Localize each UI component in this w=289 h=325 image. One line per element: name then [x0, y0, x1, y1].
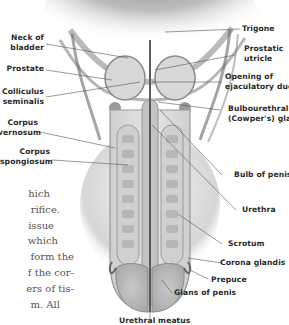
label-bulb-of-penis: Bulb of penis: [234, 170, 289, 180]
body-text-line: hich: [0, 186, 50, 202]
label-prostatic-utricle: Prostaticutricle: [244, 44, 283, 63]
label-colliculus-seminalis: Colliculusseminalis: [0, 87, 44, 106]
body-text-line: which: [0, 233, 58, 249]
body-text-line: f the cor-: [0, 265, 74, 281]
body-text-line: m. All: [0, 297, 60, 313]
body-text-line: issue: [0, 218, 54, 234]
label-corona-glandis: Corona glandis: [220, 258, 285, 268]
glans-left: [116, 264, 148, 313]
label-prostate: Prostate: [0, 64, 44, 74]
body-text-line: form the: [0, 249, 74, 265]
label-glans-of-penis: Glans of penis: [174, 288, 236, 298]
label-scrotum: Scrotum: [228, 239, 265, 249]
label-urethra: Urethra: [242, 205, 276, 215]
prostate-left-lobe: [105, 56, 145, 100]
label-urethral-meatus: Urethral meatus: [119, 316, 190, 325]
label-neck-of-bladder: Neck ofbladder: [4, 33, 44, 52]
prostate-right-lobe: [155, 56, 195, 100]
label-corpus-spongiosum: Corpusspongiosum: [0, 147, 50, 166]
body-text-fragment: hich rifice. issue which form the f the …: [0, 186, 62, 312]
label-corpus-cavernosum: Corpuscavernosum: [0, 118, 38, 137]
body-text-line: rifice.: [0, 202, 60, 218]
label-prepuce: Prepuce: [211, 275, 247, 285]
label-trigone: Trigone: [242, 24, 275, 34]
label-opening-of-ejaculatory-duct: Opening ofejaculatory duct: [225, 72, 289, 91]
body-text-line: ers of tis-: [0, 281, 74, 297]
anatomy-figure: Neck ofbladder Prostate Colliculussemina…: [0, 0, 289, 325]
label-bulbourethral-gland: Bulbourethral(Cowper's) gland: [228, 104, 289, 123]
